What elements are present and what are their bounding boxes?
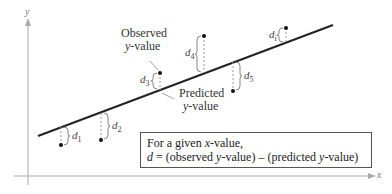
formula-line2: d = (observed y-value) – (predicted y-va… [147, 150, 365, 164]
d-subscript: 1 [78, 135, 82, 144]
distance-label-d4: d4 [185, 46, 195, 61]
x-axis-arrow-icon [368, 173, 376, 179]
distance-label-d5: d5 [244, 69, 254, 84]
f1-suffix: -value, [210, 136, 243, 150]
d-subscript: 4 [191, 52, 195, 61]
regression-line [38, 25, 333, 136]
formula-line1: For a given x-value, [147, 136, 365, 150]
d-subscript: i [275, 34, 277, 43]
d-subscript: 2 [118, 125, 122, 134]
observed-label: Observed y-value [121, 27, 167, 53]
d-subscript: 3 [146, 79, 150, 88]
f2-a: = (observed [153, 150, 216, 164]
predicted-line2: y-value [179, 100, 224, 113]
x-axis-label: x [377, 169, 381, 180]
distance-label-d2: d2 [112, 119, 122, 134]
d-subscript: 5 [250, 75, 254, 84]
observed-rest: -value [130, 39, 160, 53]
f2-c: -value) [324, 150, 358, 164]
predicted-label: Predicted y-value [179, 87, 224, 113]
distance-label-di: di [269, 28, 277, 43]
distance-label-d3: d3 [140, 73, 150, 88]
y-axis-label: y [25, 6, 29, 17]
distance-label-d1: d1 [72, 129, 82, 144]
observed-line2: y-value [121, 40, 167, 53]
formula-box: For a given x-value, d = (observed y-val… [140, 132, 372, 168]
f2-b: -value) – (predicted [221, 150, 319, 164]
f1-prefix: For a given [147, 136, 205, 150]
y-axis-arrow-icon [25, 18, 31, 26]
predicted-rest: -value [188, 99, 218, 113]
